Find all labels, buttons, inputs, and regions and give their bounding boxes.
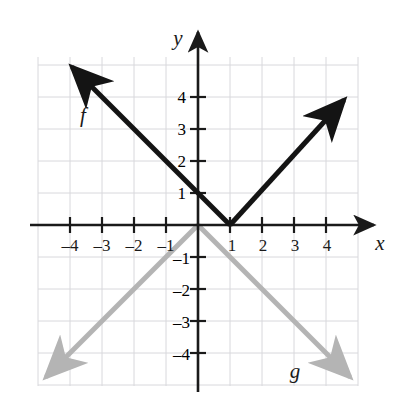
x-tick-label-4: 4 bbox=[323, 236, 332, 255]
y-axis-label: y bbox=[171, 26, 183, 50]
y-tick-label-4: 4 bbox=[178, 88, 187, 107]
x-tick-label-neg1: –1 bbox=[157, 236, 175, 255]
x-tick-label-2: 2 bbox=[259, 236, 268, 255]
y-tick-label-neg1: –1 bbox=[172, 249, 190, 268]
x-tick-label-3: 3 bbox=[291, 236, 300, 255]
f-function-curve bbox=[72, 67, 344, 225]
y-tick-label-1: 1 bbox=[178, 184, 187, 203]
x-tick-label-1: 1 bbox=[228, 236, 237, 255]
f-left-branch bbox=[72, 67, 230, 225]
coordinate-plane: –4 –3 –2 –1 1 2 3 4 4 3 2 1 –1 –2 –3 –4 … bbox=[0, 0, 406, 403]
x-tick-label-neg2: –2 bbox=[125, 236, 143, 255]
f-curve-label: f bbox=[80, 103, 89, 127]
y-tick-label-3: 3 bbox=[178, 120, 187, 139]
y-tick-label-neg3: –3 bbox=[172, 313, 190, 332]
x-tick-label-neg4: –4 bbox=[61, 236, 80, 255]
x-tick-labels: –4 –3 –2 –1 1 2 3 4 bbox=[61, 236, 332, 255]
graph-figure: –4 –3 –2 –1 1 2 3 4 4 3 2 1 –1 –2 –3 –4 … bbox=[0, 0, 406, 403]
g-curve-label: g bbox=[290, 359, 301, 383]
y-tick-label-neg4: –4 bbox=[172, 345, 191, 364]
y-tick-label-neg2: –2 bbox=[172, 281, 190, 300]
y-tick-label-2: 2 bbox=[178, 152, 187, 171]
y-axis bbox=[190, 32, 206, 392]
x-axis-label: x bbox=[374, 231, 385, 255]
f-right-branch bbox=[230, 100, 344, 225]
x-tick-label-neg3: –3 bbox=[93, 236, 111, 255]
